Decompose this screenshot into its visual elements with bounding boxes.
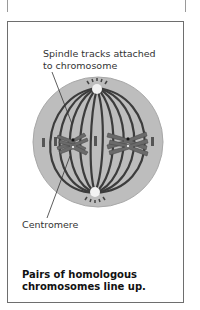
figure-caption: Pairs of homologous chromosomes line up.	[22, 269, 172, 293]
centromere-label: Centromere	[22, 219, 78, 231]
spindle-tracks-label: Spindle tracks attached to chromosome	[43, 48, 163, 72]
meiosis-cell-diagram	[0, 0, 200, 310]
